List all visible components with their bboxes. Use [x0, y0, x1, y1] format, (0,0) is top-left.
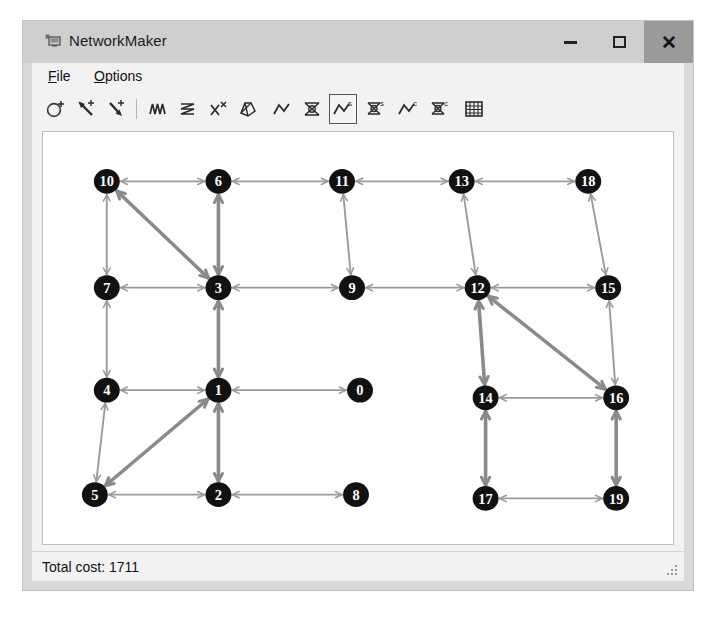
minimize-icon: [564, 41, 577, 44]
node-label: 3: [215, 280, 222, 296]
toolbar: s s c: [32, 91, 684, 127]
client-area: File Options: [32, 63, 684, 581]
node-label: 10: [100, 174, 114, 190]
menu-options-rest: ptions: [105, 68, 142, 84]
graph-node[interactable]: 2: [205, 482, 231, 507]
graph-edge[interactable]: [609, 301, 615, 385]
status-bar: Total cost: 1711: [32, 551, 684, 581]
node-label: 0: [356, 383, 363, 399]
node-label: 8: [352, 487, 359, 503]
node-label: 1: [215, 383, 222, 399]
svg-text:s: s: [380, 99, 384, 108]
graph-node[interactable]: 13: [449, 169, 475, 194]
graph-node[interactable]: 8: [343, 482, 369, 507]
graph-node[interactable]: 3: [205, 275, 231, 300]
svg-text:c: c: [444, 99, 448, 108]
minimum-spanning-tree-icon-button[interactable]: [234, 94, 262, 124]
shortest-path-icon-button[interactable]: [268, 94, 296, 124]
graph-node[interactable]: 10: [94, 169, 120, 194]
node-label: 12: [470, 280, 484, 296]
node-label: 18: [581, 174, 595, 190]
spanning-tree-cost-icon: c: [429, 98, 451, 120]
graph-node[interactable]: 11: [329, 169, 355, 194]
grid-icon-button[interactable]: [460, 94, 488, 124]
add-node-icon-button[interactable]: [42, 94, 70, 124]
network-flow-source-icon-button[interactable]: s: [329, 94, 357, 124]
node-label: 2: [215, 487, 222, 503]
node-label: 19: [609, 491, 623, 507]
node-label: 14: [478, 390, 492, 406]
minimum-spanning-tree-icon: [237, 98, 259, 120]
grid-icon: [463, 98, 485, 120]
graph-edge[interactable]: [591, 194, 606, 274]
maximize-icon: [613, 36, 626, 48]
graph-node[interactable]: 4: [94, 378, 120, 403]
zigzag-path-icon: [177, 98, 199, 120]
svg-text:s: s: [348, 99, 352, 108]
shortest-path-cost-icon: c: [397, 98, 419, 120]
node-label: 4: [103, 383, 110, 399]
graph-edge[interactable]: [117, 191, 209, 279]
graph-edge[interactable]: [96, 403, 105, 481]
node-label: 13: [454, 174, 468, 190]
graph-edge[interactable]: [479, 301, 485, 385]
graph-node[interactable]: 0: [347, 378, 373, 403]
random-walk-icon: [147, 98, 169, 120]
graph-node[interactable]: 5: [82, 482, 108, 507]
title-bar[interactable]: NetworkMaker ✕: [23, 21, 693, 63]
close-button[interactable]: ✕: [644, 21, 693, 63]
maximize-button[interactable]: [595, 21, 644, 63]
network-flow-icon: [301, 98, 323, 120]
node-label: 5: [91, 487, 98, 503]
graph-node[interactable]: 16: [603, 385, 629, 410]
add-edge-icon-button[interactable]: [72, 94, 100, 124]
graph-canvas[interactable]: 106111318739121541014165281719: [42, 131, 674, 545]
menu-item-file[interactable]: File: [48, 68, 71, 84]
window-title: NetworkMaker: [69, 32, 167, 49]
graph-edge[interactable]: [488, 296, 605, 389]
add-directed-edge-icon-button[interactable]: [102, 94, 130, 124]
add-edge-icon: [75, 98, 97, 120]
random-walk-icon-button[interactable]: [144, 94, 172, 124]
node-label: 17: [478, 491, 492, 507]
add-node-icon: [45, 98, 67, 120]
cross-edges-icon-button[interactable]: [204, 94, 232, 124]
menu-bar: File Options: [32, 63, 684, 91]
node-layer: 106111318739121541014165281719: [82, 169, 629, 511]
graph-node[interactable]: 12: [465, 275, 491, 300]
graph-node[interactable]: 9: [339, 275, 365, 300]
shortest-path-cost-icon-button[interactable]: c: [394, 94, 422, 124]
network-graph[interactable]: 106111318739121541014165281719: [43, 132, 673, 544]
network-flow-icon-button[interactable]: [298, 94, 326, 124]
node-label: 11: [335, 174, 349, 190]
node-label: 15: [601, 280, 615, 296]
edge-layer: [94, 178, 621, 501]
graph-node[interactable]: 18: [575, 169, 601, 194]
spanning-tree-cost-icon-button[interactable]: c: [426, 94, 454, 124]
graph-edge[interactable]: [464, 195, 476, 275]
spanning-tree-source-icon-button[interactable]: s: [362, 94, 390, 124]
node-label: 7: [103, 280, 110, 296]
toolbar-separator: [136, 99, 137, 119]
graph-node[interactable]: 6: [205, 169, 231, 194]
zigzag-path-icon-button[interactable]: [174, 94, 202, 124]
minimize-button[interactable]: [546, 21, 595, 63]
application-window: NetworkMaker ✕ File Options: [22, 20, 694, 591]
network-flow-source-icon: s: [332, 98, 354, 120]
graph-edge[interactable]: [343, 195, 350, 275]
node-label: 16: [609, 390, 623, 406]
app-window-icon: [45, 34, 61, 49]
graph-node[interactable]: 14: [473, 385, 499, 410]
svg-text:c: c: [413, 99, 417, 108]
graph-node[interactable]: 15: [595, 275, 621, 300]
menu-item-options[interactable]: Options: [94, 68, 142, 84]
graph-node[interactable]: 17: [473, 486, 499, 511]
resize-grip[interactable]: [665, 563, 679, 577]
node-label: 9: [348, 280, 355, 296]
graph-node[interactable]: 1: [205, 378, 231, 403]
graph-node[interactable]: 19: [603, 486, 629, 511]
graph-node[interactable]: 7: [94, 275, 120, 300]
close-icon: ✕: [661, 33, 677, 52]
graph-edge[interactable]: [105, 399, 208, 486]
menu-file-rest: ile: [57, 68, 71, 84]
